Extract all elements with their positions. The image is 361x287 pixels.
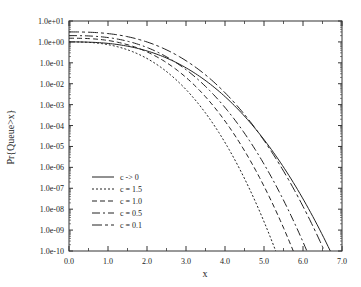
series-line <box>69 36 307 251</box>
legend-label: c = 1.0 <box>120 197 142 206</box>
legend-label: c = 0.1 <box>120 221 142 230</box>
x-tick-label: 1.0 <box>103 257 113 266</box>
y-tick-label: 1.0e-01 <box>40 59 64 68</box>
y-tick-label: 1.0e+01 <box>38 17 64 26</box>
x-tick-label: 3.0 <box>181 257 191 266</box>
x-tick-label: 0.0 <box>64 257 74 266</box>
curves <box>69 32 330 251</box>
y-tick-label: 1.0e-07 <box>40 184 64 193</box>
series-line <box>69 42 276 251</box>
y-axis-label: Pr{Queue>x} <box>5 109 16 164</box>
y-tick-label: 1.0e-06 <box>40 163 64 172</box>
x-tick-label: 4.0 <box>220 257 230 266</box>
y-tick-label: 1.0e-05 <box>40 142 64 151</box>
x-tick-label: 5.0 <box>259 257 269 266</box>
y-axis: 1.0e+011.0e+001.0e-011.0e-021.0e-031.0e-… <box>38 17 342 256</box>
y-tick-label: 1.0e-04 <box>40 122 64 131</box>
legend-label: c -> 0 <box>120 173 139 182</box>
series-line <box>69 32 324 251</box>
plot-area <box>69 21 342 251</box>
legend-label: c = 1.5 <box>120 185 142 194</box>
x-tick-label: 2.0 <box>142 257 152 266</box>
y-tick-label: 1.0e-02 <box>40 80 64 89</box>
y-tick-label: 1.0e-03 <box>40 101 64 110</box>
y-tick-label: 1.0e+00 <box>38 38 64 47</box>
series-line <box>69 38 293 251</box>
y-tick-label: 1.0e-08 <box>40 205 64 214</box>
plot-frame <box>69 21 342 251</box>
y-tick-label: 1.0e-09 <box>40 226 64 235</box>
legend: c -> 0c = 1.5c = 1.0c = 0.5c = 0.1 <box>92 173 142 230</box>
x-axis: 0.01.02.03.04.05.06.07.0 <box>64 21 347 266</box>
x-tick-label: 7.0 <box>337 257 347 266</box>
x-axis-label: x <box>203 268 208 279</box>
y-tick-label: 1.0e-10 <box>40 247 64 256</box>
x-tick-label: 6.0 <box>298 257 308 266</box>
legend-label: c = 0.5 <box>120 209 142 218</box>
series-line <box>69 42 330 251</box>
queue-probability-chart: 1.0e+011.0e+001.0e-011.0e-021.0e-031.0e-… <box>0 0 361 287</box>
